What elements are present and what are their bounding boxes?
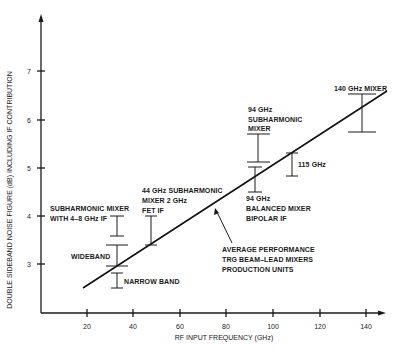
label-115ghz: 115 GHz (298, 161, 326, 168)
label-subharmonic-4-8-line2: WITH 4–8 GHz IF (50, 215, 108, 222)
x-tick-label: 20 (83, 323, 91, 330)
label-94ghz-sub-line3: MIXER (248, 125, 271, 132)
label-average-line2: TRG BEAM–LEAD MIXERS (222, 256, 313, 263)
error-bar-115ghz (286, 153, 298, 176)
label-wideband: WIDEBAND (71, 253, 110, 260)
label-44ghz-line2: MIXER 2 GHz (142, 197, 187, 204)
label-44ghz-line3: FET IF (142, 207, 165, 214)
x-axis-title: RF INPUT FREQUENCY (GHz) (175, 334, 274, 342)
label-subharmonic-4-8-line1: SUBHARMONIC MIXER (50, 205, 129, 212)
label-average-line1: AVERAGE PERFORMANCE (222, 246, 315, 253)
label-94ghz-bal-line2: BALANCED MIXER (246, 205, 311, 212)
label-140ghz: 140 GHz MIXER (334, 85, 387, 92)
x-tick-label: 60 (176, 323, 184, 330)
label-94ghz-bal-line1: 94 GHz (246, 195, 271, 202)
x-tick-label: 100 (267, 323, 279, 330)
label-94ghz-bal-line3: BIPOLAR IF (246, 215, 287, 222)
x-tick-label: 120 (314, 323, 326, 330)
label-average-line3: PRODUCTION UNITS (222, 266, 294, 273)
noise-figure-chart: 7 6 5 4 3 20 40 60 80 100 120 140 RF INP… (0, 0, 406, 351)
error-bar-94ghz-subharmonic (247, 134, 270, 162)
y-axis-title: DOUBLE SIDEBAND NOISE FIGURE (dB) INCLUD… (6, 71, 14, 309)
error-bar-narrow-band (111, 273, 123, 288)
y-tick-label: 7 (27, 68, 31, 75)
x-tick-label: 40 (129, 323, 137, 330)
x-tick-label: 140 (360, 323, 372, 330)
y-tick-label: 3 (27, 261, 31, 268)
x-ticks: 20 40 60 80 100 120 140 (83, 309, 372, 330)
x-tick-label: 80 (222, 323, 230, 330)
x-axis-arrow-icon (378, 311, 386, 316)
label-94ghz-sub-line2: SUBHARMONIC (248, 116, 302, 123)
annotations: NARROW BAND WIDEBAND SUBHARMONIC MIXER W… (50, 85, 387, 285)
axes (39, 14, 387, 316)
y-ticks: 7 6 5 4 3 (27, 68, 45, 268)
error-bar-subharmonic-4-8 (110, 216, 124, 236)
y-tick-label: 5 (27, 165, 31, 172)
y-tick-label: 4 (27, 213, 31, 220)
y-tick-label: 6 (27, 117, 31, 124)
label-narrow-band: NARROW BAND (124, 278, 180, 285)
pointer-line (217, 212, 232, 243)
label-44ghz-line1: 44 GHz SUBHARMONIC (142, 187, 223, 194)
label-94ghz-sub-line1: 94 GHz (248, 106, 273, 113)
y-axis-arrow-icon (39, 14, 44, 22)
